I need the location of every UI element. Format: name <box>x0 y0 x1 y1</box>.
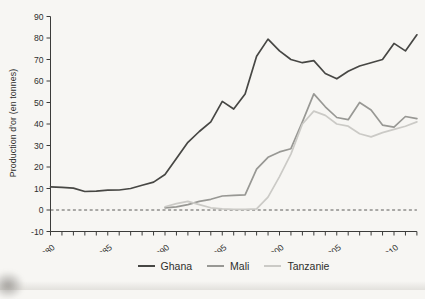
legend-item-ghana: Ghana <box>138 260 193 272</box>
gold-production-chart: -100102030405060708090198019851990199520… <box>0 0 425 252</box>
y-tick-label: 40 <box>34 119 44 129</box>
legend: GhanaMaliTanzanie <box>50 260 417 272</box>
series-line-tanzanie <box>165 111 417 209</box>
legend-label: Ghana <box>161 260 193 272</box>
y-tick-label: 90 <box>34 12 44 22</box>
x-tick-label: 2005 <box>322 242 343 252</box>
x-tick-label: 2010 <box>379 242 400 252</box>
y-tick-label: 70 <box>34 55 44 65</box>
y-tick-label: 20 <box>34 162 44 172</box>
y-tick-label: -10 <box>31 227 44 237</box>
y-axis-label: Production d'or (en tonnes) <box>8 58 20 188</box>
x-tick-label: 1985 <box>93 242 114 252</box>
legend-item-tanzanie: Tanzanie <box>264 260 329 272</box>
x-tick-label: 1990 <box>150 242 171 252</box>
x-tick-label: 1980 <box>36 242 57 252</box>
y-tick-label: 30 <box>34 141 44 151</box>
legend-label: Mali <box>230 260 249 272</box>
legend-swatch-tanzanie <box>264 265 281 267</box>
series-line-mali <box>165 94 417 208</box>
legend-item-mali: Mali <box>207 260 249 272</box>
legend-label: Tanzanie <box>287 260 329 272</box>
x-tick-label: 2000 <box>265 242 286 252</box>
series-line-ghana <box>51 35 417 192</box>
legend-swatch-mali <box>207 265 224 267</box>
y-tick-label: 10 <box>34 184 44 194</box>
page-bottom-shadow <box>0 281 425 290</box>
y-tick-label: 50 <box>34 98 44 108</box>
y-tick-label: 0 <box>39 205 44 215</box>
y-tick-label: 80 <box>34 33 44 43</box>
legend-swatch-ghana <box>138 265 155 267</box>
x-tick-label: 1995 <box>207 242 228 252</box>
y-tick-label: 60 <box>34 76 44 86</box>
